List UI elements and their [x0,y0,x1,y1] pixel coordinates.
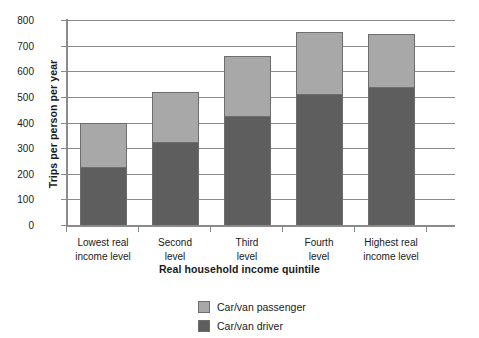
y-tick-label-0: 0 [0,221,34,231]
x-axis-label-4: Highest real income level [348,236,434,263]
bar-segment-driver-3[interactable] [296,94,343,225]
y-tick-mark-200 [61,174,67,175]
y-tick-mark-700 [61,46,67,47]
bar-group-0[interactable] [80,123,127,226]
x-axis-label-4-line2: income level [348,250,434,264]
bar-segment-passenger-2[interactable] [224,56,271,116]
legend-item-passenger[interactable]: Car/van passenger [198,297,306,316]
bar-segment-driver-0[interactable] [80,167,127,225]
bar-segment-driver-4[interactable] [368,87,415,225]
x-axis-label-4-line1: Highest real [348,236,434,250]
legend-swatch-driver-icon [198,320,210,332]
legend-swatch-passenger-icon [198,301,210,313]
bar-segment-driver-1[interactable] [152,142,199,225]
y-axis-title: Trips per person per year [47,19,59,229]
legend-item-driver[interactable]: Car/van driver [198,316,306,335]
y-tick-label-400: 400 [0,119,34,129]
plot-area: 800 700 600 500 400 300 200 100 0 [67,20,455,225]
x-tick-mark-2 [210,225,211,232]
y-tick-mark-500 [61,97,67,98]
chart-legend: Car/van passenger Car/van driver [198,297,306,335]
x-tick-mark-4 [354,225,355,232]
bar-segment-driver-2[interactable] [224,116,271,225]
x-tick-mark-0 [66,225,67,232]
legend-label-driver: Car/van driver [217,320,283,332]
y-tick-mark-600 [61,71,67,72]
x-tick-mark-3 [282,225,283,232]
y-tick-label-100: 100 [0,195,34,205]
x-axis-line [66,225,455,227]
y-tick-label-600: 600 [0,67,34,77]
bar-segment-passenger-3[interactable] [296,32,343,94]
y-tick-mark-800 [61,20,67,21]
bar-segment-passenger-0[interactable] [80,123,127,168]
bar-group-1[interactable] [152,92,199,225]
y-tick-label-300: 300 [0,144,34,154]
y-tick-label-700: 700 [0,42,34,52]
bar-segment-passenger-4[interactable] [368,34,415,87]
stacked-bar-chart: Trips per person per year 800 700 600 50… [0,0,479,338]
bar-group-2[interactable] [224,56,271,225]
y-tick-mark-300 [61,148,67,149]
legend-label-passenger: Car/van passenger [217,301,306,313]
bar-group-3[interactable] [296,32,343,225]
y-tick-label-500: 500 [0,93,34,103]
x-axis-title: Real household income quintile [0,263,479,275]
bar-segment-passenger-1[interactable] [152,92,199,143]
gridline-800 [67,20,455,21]
bar-group-4[interactable] [368,34,415,225]
y-tick-label-800: 800 [0,16,34,26]
y-tick-mark-100 [61,199,67,200]
y-tick-mark-400 [61,123,67,124]
y-tick-label-200: 200 [0,170,34,180]
x-tick-mark-1 [138,225,139,232]
x-tick-mark-5 [426,225,427,232]
